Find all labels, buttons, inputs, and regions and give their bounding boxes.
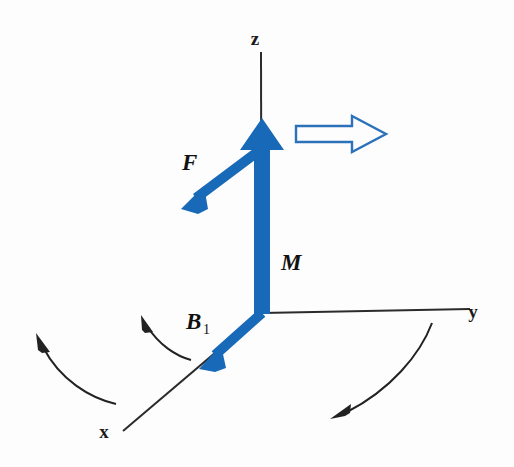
y-axis-label: y <box>468 301 478 322</box>
vector-B1-shaft <box>215 313 262 355</box>
curved-arrow-lower-left-outer-head <box>36 333 50 353</box>
precession-direction-arrow-shape <box>296 116 386 152</box>
vector-diagram-svg: z y x F M B 1 <box>0 0 514 467</box>
precession-direction-arrow <box>296 116 386 152</box>
z-axis-label: z <box>251 28 260 49</box>
vector-M-label-F: F <box>181 150 197 175</box>
curved-arrow-lower-right-path <box>347 323 432 412</box>
curved-arrow-lower-right-head <box>330 404 351 419</box>
curved-arrow-near-b1-head <box>141 315 153 333</box>
vector-B1-label: B <box>185 309 201 334</box>
y-axis-line <box>262 309 470 313</box>
figure-canvas: z y x F M B 1 <box>0 0 514 467</box>
curved-arrows-group <box>36 315 432 419</box>
curved-arrow-near-b1-path <box>147 326 191 360</box>
x-axis-label: x <box>99 421 109 442</box>
vector-M-label: M <box>280 250 303 275</box>
vector-B1-subscript: 1 <box>203 322 210 337</box>
vector-F-head <box>181 186 208 214</box>
curved-arrow-lower-left-outer-path <box>43 347 116 404</box>
axes-group <box>123 52 470 431</box>
vector-B1-label-group: B 1 <box>185 309 210 337</box>
